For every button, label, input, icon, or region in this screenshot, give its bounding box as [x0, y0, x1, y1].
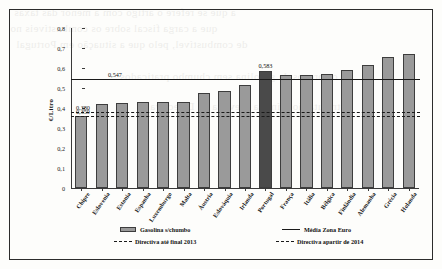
- bar[interactable]: [75, 116, 87, 188]
- bar-slot: [91, 28, 111, 188]
- x-axis-label: Itália: [303, 191, 316, 206]
- x-axis-label: Luxemburgo: [148, 191, 173, 223]
- bar-group: 0,583: [71, 28, 419, 188]
- y-tick-label: 0,3: [57, 125, 65, 132]
- y-tick-label: 0,1: [57, 165, 65, 172]
- x-axis-label: Portugal: [256, 191, 274, 214]
- legend-marker-solid: [282, 229, 300, 230]
- bar[interactable]: [362, 65, 374, 188]
- x-axis-label: Estonia: [115, 191, 132, 211]
- bar-slot: [194, 28, 214, 188]
- bar-slot: [296, 28, 316, 188]
- x-axis-label: Eslováquia: [212, 191, 234, 219]
- x-axis-label: Áustria: [197, 191, 214, 211]
- plot-area: €/Litro 0,80,70,60,50,40,30,20,10 0,583 …: [30, 28, 422, 200]
- x-axis-label: Finlândia: [337, 191, 357, 216]
- x-axis-label: Grécia: [382, 191, 397, 209]
- bar-slot: [399, 28, 419, 188]
- y-tick-label: 0,2: [57, 145, 65, 152]
- x-axis-label: Irlanda: [238, 191, 255, 211]
- legend-label: Directiva até final 2013: [135, 238, 196, 245]
- bar-slot: [378, 28, 398, 188]
- bar-slot: [317, 28, 337, 188]
- legend-item[interactable]: Média Zona Euro: [282, 226, 351, 233]
- bar[interactable]: [177, 102, 189, 188]
- bar[interactable]: [280, 75, 292, 188]
- bar-slot: [153, 28, 173, 188]
- bar-slot: [235, 28, 255, 188]
- chart-frame: €/Litro 0,80,70,60,50,40,30,20,10 0,583 …: [9, 9, 433, 260]
- bar[interactable]: [341, 70, 353, 188]
- bar[interactable]: [321, 74, 333, 188]
- bar-slot: [173, 28, 193, 188]
- legend-item[interactable]: Gasolina s/chumbo: [120, 226, 190, 233]
- y-tick-label: 0,7: [57, 45, 65, 52]
- bar-slot: [337, 28, 357, 188]
- x-axis-label: Bélgica: [320, 191, 336, 211]
- bar[interactable]: [239, 85, 251, 188]
- legend-marker-swatch: [120, 227, 136, 232]
- bar[interactable]: [157, 102, 169, 188]
- legend-item[interactable]: Directiva apartir de 2014: [276, 238, 363, 245]
- bar-slot: [214, 28, 234, 188]
- scanned-page: a que se refere o artigo com a menor das…: [0, 0, 442, 269]
- chart-legend: Gasolina s/chumboMédia Zona EuroDirectiv…: [32, 226, 412, 252]
- bar-slot: [276, 28, 296, 188]
- y-tick-label: 0,6: [57, 65, 65, 72]
- x-axis-label: Espanha: [134, 191, 152, 214]
- legend-label: Média Zona Euro: [304, 226, 351, 233]
- x-axis-label: Malta: [179, 191, 193, 208]
- bar-slot: [358, 28, 378, 188]
- x-axis-label: Eslovenia: [91, 191, 111, 216]
- bar-slot: 0,583: [255, 28, 275, 188]
- y-tick-label: 0: [62, 185, 65, 192]
- y-axis-ticks: 0,80,70,60,50,40,30,20,10: [44, 28, 68, 188]
- reference-line-label: 0,359: [76, 108, 90, 115]
- bar-highlight-portugal[interactable]: [259, 71, 271, 188]
- legend-marker-dashed: [114, 241, 132, 242]
- reference-line-label: 0,547: [108, 71, 122, 78]
- legend-item[interactable]: Directiva até final 2013: [114, 238, 196, 245]
- y-tick-label: 0,5: [57, 85, 65, 92]
- bar[interactable]: [218, 91, 230, 188]
- y-tick-label: 0,4: [57, 105, 65, 112]
- bar-slot: [132, 28, 152, 188]
- bar-slot: [112, 28, 132, 188]
- x-axis-label: Alemanha: [357, 191, 378, 217]
- x-axis-label: Chipre: [75, 191, 91, 210]
- reference-line-directiva-2013: [71, 112, 420, 113]
- bar[interactable]: [403, 54, 415, 188]
- reference-line-media-zona-euro: [71, 79, 420, 80]
- bar[interactable]: [300, 75, 312, 188]
- legend-label: Directiva apartir de 2014: [297, 238, 363, 245]
- bar-value-label: 0,583: [259, 62, 273, 69]
- bar[interactable]: [137, 102, 149, 188]
- reference-line-directiva-2014: [71, 116, 420, 117]
- legend-label: Gasolina s/chumbo: [140, 226, 190, 233]
- y-tick-label: 0,8: [57, 25, 65, 32]
- x-axis-label: Holanda: [400, 191, 418, 213]
- legend-marker-dashed: [276, 241, 294, 242]
- bar[interactable]: [382, 57, 394, 188]
- bar[interactable]: [198, 93, 210, 188]
- x-axis-label: França: [279, 191, 295, 210]
